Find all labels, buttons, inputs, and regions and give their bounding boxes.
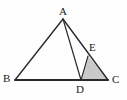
vertex-label-e: E xyxy=(89,42,96,53)
segment-ad xyxy=(63,19,81,80)
geometry-figure: A B C D E xyxy=(0,0,127,100)
vertex-label-a: A xyxy=(59,6,67,17)
segment-ab xyxy=(15,19,63,80)
vertex-label-c: C xyxy=(112,74,119,85)
vertex-label-b: B xyxy=(3,73,10,84)
vertex-label-d: D xyxy=(76,84,84,95)
